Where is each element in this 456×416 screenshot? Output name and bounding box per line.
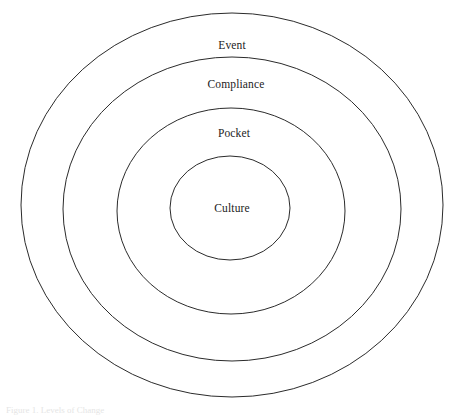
ring-label-culture: Culture xyxy=(214,203,250,215)
ring-label-event: Event xyxy=(218,40,246,52)
figure-caption: Figure 1. Levels of Change xyxy=(6,405,104,416)
ring-label-pocket: Pocket xyxy=(218,128,250,140)
ring-label-compliance: Compliance xyxy=(207,79,264,91)
